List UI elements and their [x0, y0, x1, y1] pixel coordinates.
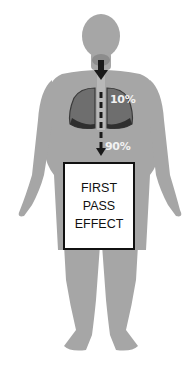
trachea: [97, 72, 105, 130]
first-pass-effect-box: FIRST PASS EFFECT: [63, 162, 135, 250]
lung-percentage-label: 10%: [110, 93, 135, 106]
box-line-1: FIRST: [81, 179, 117, 197]
gut-percentage-label: 90%: [105, 140, 130, 153]
box-line-3: EFFECT: [75, 215, 124, 233]
box-line-2: PASS: [83, 197, 115, 215]
